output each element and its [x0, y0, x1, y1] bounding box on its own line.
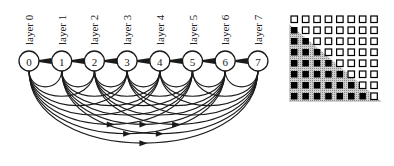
matrix-cell-empty: [302, 27, 309, 34]
layer-label-4: layer 4: [154, 14, 166, 45]
matrix-cell-filled: [302, 93, 309, 100]
matrix-cell-filled: [337, 71, 344, 78]
layer-node-3: 3: [117, 51, 137, 71]
matrix-cell-filled: [314, 93, 321, 100]
matrix-cell-empty: [359, 27, 366, 34]
layer-node-6: 6: [215, 51, 235, 71]
node-number: 1: [59, 56, 65, 68]
matrix-cell-filled: [348, 93, 355, 100]
layer-labels: layer 0layer 1layer 2layer 3layer 4layer…: [23, 14, 264, 45]
matrix-cell-empty: [371, 49, 378, 56]
matrix-cell-filled: [314, 82, 321, 89]
matrix-cell-empty: [348, 38, 355, 45]
skip-connection-arcs: [29, 70, 258, 146]
node-number: 5: [190, 56, 196, 68]
layer-node-7: 7: [248, 51, 268, 71]
matrix-cell-empty: [371, 38, 378, 45]
dense-connectivity-figure: 01234567 layer 0layer 1layer 2layer 3lay…: [0, 0, 394, 166]
chain-6-7: [235, 58, 248, 64]
chain-5-6: [203, 58, 216, 64]
chain-2-3: [104, 58, 117, 64]
matrix-cell-filled: [325, 82, 332, 89]
matrix-cell-empty: [325, 38, 332, 45]
matrix-cell-empty: [371, 71, 378, 78]
matrix-cell-filled: [325, 71, 332, 78]
matrix-cell-empty: [359, 16, 366, 23]
layer-label-2: layer 2: [88, 15, 100, 45]
matrix-cell-empty: [337, 38, 344, 45]
connectivity-matrix: [289, 16, 382, 102]
chain-1-2: [72, 58, 85, 64]
layer-label-0: layer 0: [23, 14, 35, 45]
arc-1-7: [62, 70, 258, 134]
matrix-cell-empty: [359, 82, 366, 89]
matrix-cell-filled: [302, 60, 309, 67]
matrix-cell-filled: [348, 82, 355, 89]
layer-label-6: layer 6: [219, 14, 231, 45]
matrix-cell-empty: [348, 49, 355, 56]
layer-node-0: 0: [19, 51, 39, 71]
matrix-cell-empty: [314, 27, 321, 34]
matrix-cell-empty: [371, 60, 378, 67]
matrix-cell-empty: [302, 16, 309, 23]
chain-0-1: [39, 58, 52, 64]
matrix-cell-filled: [302, 71, 309, 78]
matrix-cell-filled: [337, 82, 344, 89]
chain-4-5: [170, 58, 183, 64]
matrix-cell-empty: [359, 71, 366, 78]
matrix-cell-empty: [314, 16, 321, 23]
matrix-cell-empty: [348, 60, 355, 67]
matrix-cell-empty: [337, 60, 344, 67]
node-number: 6: [222, 56, 228, 68]
matrix-cell-filled: [314, 49, 321, 56]
matrix-cell-empty: [359, 38, 366, 45]
node-number: 4: [157, 56, 163, 68]
layer-node-4: 4: [150, 51, 170, 71]
node-number: 0: [26, 56, 32, 68]
matrix-cell-empty: [359, 60, 366, 67]
arrowhead-icon: [156, 131, 164, 137]
matrix-cell-filled: [314, 71, 321, 78]
matrix-cell-empty: [371, 93, 378, 100]
matrix-cell-filled: [325, 60, 332, 67]
layer-node-1: 1: [52, 51, 72, 71]
arrowhead-icon: [139, 140, 147, 146]
matrix-cell-empty: [325, 27, 332, 34]
arc-0-6: [29, 70, 225, 134]
matrix-cell-empty: [325, 16, 332, 23]
matrix-cell-empty: [348, 71, 355, 78]
node-number: 3: [124, 56, 130, 68]
matrix-cell-filled: [325, 93, 332, 100]
matrix-cell-filled: [302, 49, 309, 56]
matrix-cell-filled: [291, 49, 298, 56]
matrix-cell-filled: [291, 82, 298, 89]
matrix-cell-filled: [291, 38, 298, 45]
matrix-cell-empty: [325, 49, 332, 56]
matrix-cell-empty: [371, 82, 378, 89]
matrix-cell-empty: [371, 27, 378, 34]
matrix-cell-filled: [337, 93, 344, 100]
matrix-cell-empty: [314, 38, 321, 45]
matrix-cell-filled: [302, 38, 309, 45]
layer-label-1: layer 1: [56, 15, 68, 45]
layer-label-5: layer 5: [187, 14, 199, 45]
layer-node-2: 2: [84, 51, 104, 71]
layer-label-7: layer 7: [252, 14, 264, 45]
matrix-cell-filled: [291, 93, 298, 100]
matrix-cell-empty: [337, 49, 344, 56]
layer-label-3: layer 3: [121, 14, 133, 45]
matrix-cell-filled: [314, 60, 321, 67]
matrix-cell-empty: [359, 49, 366, 56]
matrix-cell-filled: [302, 82, 309, 89]
matrix-cell-filled: [291, 27, 298, 34]
chain-3-4: [137, 58, 150, 64]
node-number: 2: [92, 56, 98, 68]
matrix-cell-empty: [348, 27, 355, 34]
matrix-cell-empty: [337, 16, 344, 23]
matrix-cell-empty: [348, 16, 355, 23]
matrix-cell-filled: [291, 60, 298, 67]
matrix-cell-empty: [337, 27, 344, 34]
arrowhead-icon: [139, 121, 147, 127]
layer-node-5: 5: [183, 51, 203, 71]
node-number: 7: [255, 56, 261, 68]
